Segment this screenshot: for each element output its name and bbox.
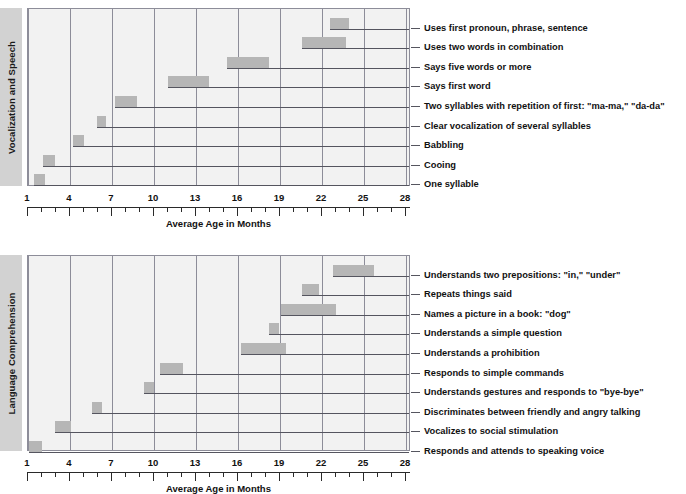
x-tick-label-28: 28	[400, 192, 411, 203]
x-minor-tick-9	[139, 472, 140, 477]
panel-vocalization-and-speech: Vocalization and Speech 1471013161922252…	[0, 0, 686, 243]
label-connector-tick	[411, 314, 420, 315]
label-connector-tick	[411, 184, 420, 185]
milestone-label: Understands two prepositions: "in," "und…	[424, 270, 620, 280]
range-bar	[73, 135, 84, 146]
label-connector-tick	[411, 67, 420, 68]
range-bar	[34, 174, 45, 185]
x-axis-baseline	[27, 207, 410, 208]
x-tick-label-4: 4	[66, 192, 71, 203]
x-tick-label-4: 4	[66, 457, 71, 468]
gridline-month-7	[112, 256, 113, 450]
x-minor-tick-11	[167, 207, 168, 212]
label-connector-tick	[411, 392, 420, 393]
range-bar	[330, 18, 348, 29]
milestone-label: Understands a prohibition	[424, 348, 540, 358]
x-major-tick-19	[279, 207, 280, 216]
x-minor-tick-17	[251, 207, 252, 212]
leader-line	[92, 413, 409, 414]
label-connector-tick	[411, 373, 420, 374]
leader-line	[144, 393, 409, 394]
label-connector-tick	[411, 333, 420, 334]
label-connector-tick	[411, 165, 420, 166]
x-major-tick-10	[153, 207, 154, 216]
x-minor-tick-8	[125, 207, 126, 212]
x-minor-tick-11	[167, 472, 168, 477]
gridline-month-16	[238, 9, 239, 185]
range-bar	[43, 155, 54, 166]
x-tick-label-28: 28	[400, 457, 411, 468]
x-tick-label-10: 10	[148, 192, 159, 203]
x-tick-label-25: 25	[358, 457, 369, 468]
milestone-label: Repeats things said	[424, 289, 512, 299]
x-major-tick-13	[195, 472, 196, 481]
x-tick-label-19: 19	[274, 192, 285, 203]
range-bar	[55, 421, 72, 432]
label-connector-tick	[411, 275, 420, 276]
milestone-label: Says five words or more	[424, 62, 531, 72]
leader-line	[34, 185, 409, 186]
milestone-label: Names a picture in a book: "dog"	[424, 309, 571, 319]
x-major-tick-16	[237, 472, 238, 481]
x-minor-tick-21	[307, 472, 308, 477]
range-bar	[302, 284, 319, 295]
x-major-tick-7	[111, 472, 112, 481]
label-connector-tick	[411, 294, 420, 295]
range-bar	[333, 265, 374, 276]
milestone-label: Says first word	[424, 81, 491, 91]
milestone-label: Vocalizes to social stimulation	[424, 426, 558, 436]
leader-line	[115, 107, 409, 108]
range-bar	[302, 37, 345, 48]
x-minor-tick-2	[41, 207, 42, 212]
leader-line	[241, 354, 409, 355]
gridline-month-22	[322, 9, 323, 185]
x-minor-tick-9	[139, 207, 140, 212]
gridline-month-13	[196, 256, 197, 450]
x-axis-tick-labels-vocalization: 14710131619222528	[27, 192, 410, 206]
x-minor-tick-2	[41, 472, 42, 477]
gridline-month-28	[406, 9, 407, 185]
milestone-label: Uses two words in combination	[424, 42, 563, 52]
gridline-month-4	[70, 9, 71, 185]
x-tick-label-19: 19	[274, 457, 285, 468]
x-major-tick-1	[27, 207, 28, 216]
x-major-tick-13	[195, 207, 196, 216]
range-bar	[29, 441, 42, 452]
gridline-month-1	[28, 256, 29, 450]
plot-area-vocalization	[27, 8, 410, 186]
range-bar	[144, 382, 154, 393]
x-tick-label-7: 7	[108, 192, 113, 203]
x-minor-tick-14	[209, 472, 210, 477]
range-bar	[269, 323, 279, 334]
x-minor-tick-23	[335, 472, 336, 477]
x-tick-label-7: 7	[108, 457, 113, 468]
x-minor-tick-5	[83, 472, 84, 477]
label-connector-tick	[411, 412, 420, 413]
x-major-tick-1	[27, 472, 28, 481]
x-minor-tick-24	[349, 472, 350, 477]
panel-title-language-comprehension-label: Language Comprehension	[6, 292, 17, 414]
x-minor-tick-17	[251, 472, 252, 477]
leader-line	[97, 127, 409, 128]
x-axis-vocalization: 14710131619222528	[27, 192, 410, 219]
x-minor-tick-18	[265, 472, 266, 477]
leader-line	[330, 29, 409, 30]
leader-line	[333, 276, 409, 277]
milestone-label: Responds and attends to speaking voice	[424, 446, 604, 456]
gridline-month-25	[364, 9, 365, 185]
leader-line	[43, 166, 409, 167]
x-minor-tick-20	[293, 207, 294, 212]
x-tick-label-13: 13	[190, 192, 201, 203]
x-minor-tick-18	[265, 207, 266, 212]
x-axis-title-language-comprehension: Average Age in Months	[27, 483, 410, 494]
label-connector-tick	[411, 106, 420, 107]
leader-line	[281, 315, 409, 316]
range-bar	[241, 343, 286, 354]
leader-line	[302, 295, 409, 296]
x-minor-tick-8	[125, 472, 126, 477]
milestone-label: Clear vocalization of several syllables	[424, 121, 591, 131]
gridline-month-1	[28, 9, 29, 185]
x-minor-tick-3	[55, 472, 56, 477]
x-axis-language-comprehension: 14710131619222528	[27, 457, 410, 484]
milestone-label: Uses first pronoun, phrase, sentence	[424, 23, 588, 33]
